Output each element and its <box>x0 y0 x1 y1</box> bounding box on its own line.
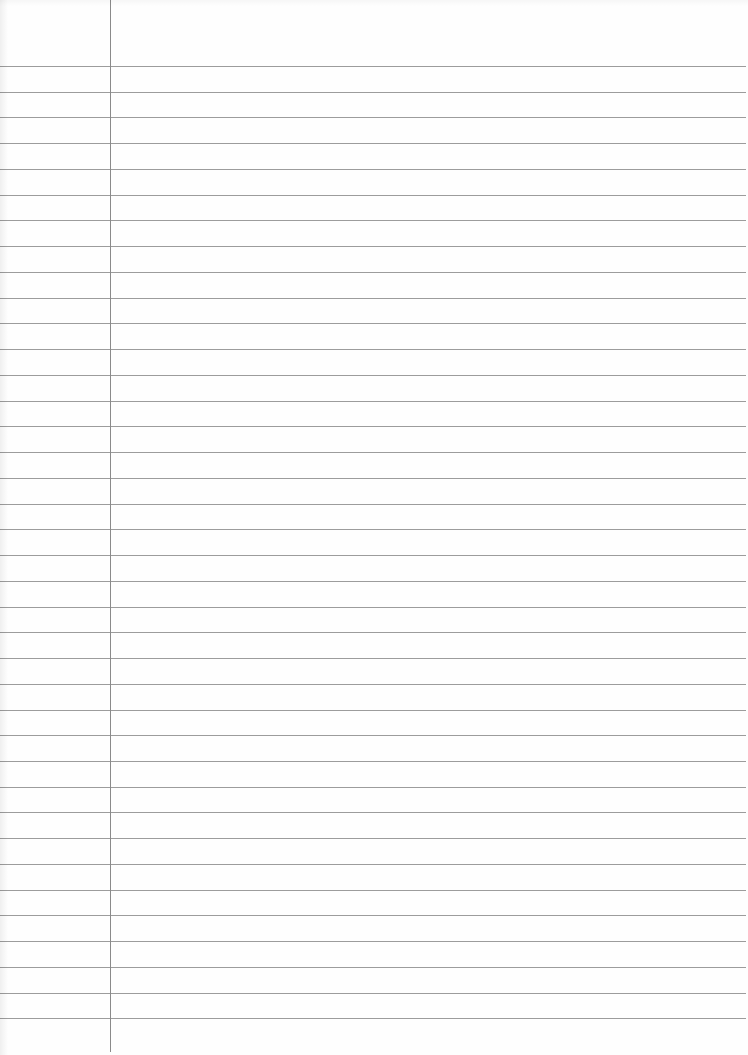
ruled-line <box>0 401 746 402</box>
ruled-line <box>0 1018 746 1019</box>
ruled-line <box>0 246 746 247</box>
horizontal-rules <box>0 0 748 1055</box>
ruled-line <box>0 349 746 350</box>
ruled-line <box>0 941 746 942</box>
ruled-line <box>0 632 746 633</box>
ruled-line <box>0 169 746 170</box>
ruled-line <box>0 710 746 711</box>
ruled-line <box>0 220 746 221</box>
ruled-line <box>0 658 746 659</box>
ruled-line <box>0 812 746 813</box>
ruled-line <box>0 426 746 427</box>
ruled-line <box>0 761 746 762</box>
ruled-line <box>0 993 746 994</box>
ruled-line <box>0 735 746 736</box>
ruled-line <box>0 478 746 479</box>
ruled-line <box>0 452 746 453</box>
ruled-line <box>0 864 746 865</box>
ruled-line <box>0 323 746 324</box>
ruled-line <box>0 66 746 67</box>
ruled-line <box>0 581 746 582</box>
ruled-line <box>0 787 746 788</box>
ruled-line <box>0 298 746 299</box>
ruled-line <box>0 890 746 891</box>
ruled-line <box>0 838 746 839</box>
ruled-line <box>0 272 746 273</box>
ruled-line <box>0 504 746 505</box>
ruled-line <box>0 555 746 556</box>
ruled-line <box>0 915 746 916</box>
ruled-paper-sheet <box>0 0 748 1055</box>
ruled-line <box>0 195 746 196</box>
ruled-line <box>0 529 746 530</box>
ruled-line <box>0 684 746 685</box>
ruled-line <box>0 607 746 608</box>
margin-line <box>110 0 111 1052</box>
ruled-line <box>0 92 746 93</box>
ruled-line <box>0 375 746 376</box>
ruled-line <box>0 967 746 968</box>
ruled-line <box>0 143 746 144</box>
ruled-line <box>0 117 746 118</box>
